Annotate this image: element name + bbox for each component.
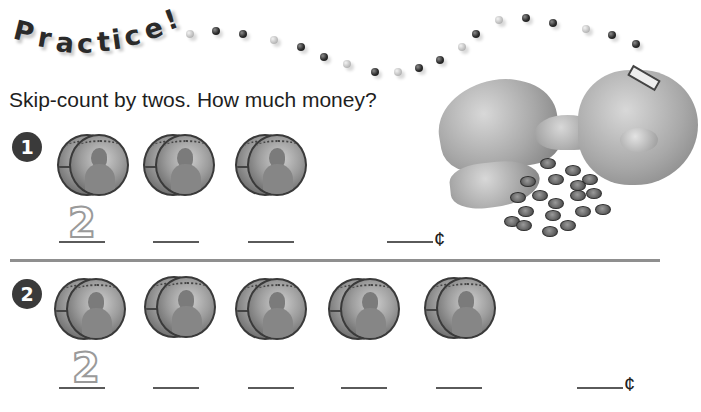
penny-icon <box>510 192 526 203</box>
penny-icon <box>575 206 591 217</box>
instruction-text: Skip-count by twos. How much money? <box>9 88 377 112</box>
bead-icon <box>549 19 557 27</box>
penny-icon <box>560 220 576 231</box>
penny-icon <box>586 188 602 199</box>
penny-icon <box>516 220 532 231</box>
bead-icon <box>436 56 444 64</box>
answer-blank[interactable] <box>59 387 105 389</box>
bead-icon <box>632 40 640 48</box>
penny-icon <box>518 206 534 217</box>
penny-pair <box>57 134 131 198</box>
piggy-snout <box>620 128 658 152</box>
title-letter: c <box>77 28 93 59</box>
penny-icon <box>540 158 556 169</box>
penny-icon <box>436 277 496 339</box>
penny-icon <box>247 278 307 340</box>
bead-icon <box>495 16 503 24</box>
title-letter: t <box>96 26 111 58</box>
penny-icon <box>570 190 586 201</box>
total-answer-blank[interactable] <box>387 241 433 243</box>
penny-icon <box>155 134 215 196</box>
penny-pair <box>54 278 128 342</box>
penny-pair <box>328 278 402 342</box>
cent-sign: ¢ <box>624 373 635 396</box>
penny-icon <box>247 134 307 196</box>
bead-icon <box>522 14 530 22</box>
answer-blank[interactable] <box>248 387 294 389</box>
title-letter: r <box>35 21 54 54</box>
penny-pair <box>424 277 498 341</box>
answer-blank[interactable] <box>59 241 105 243</box>
answer-blank[interactable] <box>153 241 199 243</box>
total-answer-blank[interactable] <box>577 387 623 389</box>
bead-icon <box>394 68 402 76</box>
title-letter: a <box>54 26 75 59</box>
answer-blank[interactable] <box>248 241 294 243</box>
penny-icon <box>520 176 536 187</box>
bead-icon <box>239 30 247 38</box>
penny-pair <box>235 278 309 342</box>
bead-icon <box>212 27 220 35</box>
bead-icon <box>608 31 616 39</box>
penny-pair <box>143 134 217 198</box>
penny-icon <box>532 190 548 201</box>
penny-icon <box>548 174 564 185</box>
piggy-bank-icon <box>420 70 701 250</box>
bead-icon <box>371 68 379 76</box>
problem-number-badge: 1 <box>12 132 42 162</box>
bead-icon <box>320 53 328 61</box>
problem-number-badge: 2 <box>12 279 42 309</box>
penny-icon <box>595 204 611 215</box>
penny-icon <box>69 134 129 196</box>
section-divider <box>10 259 660 262</box>
bead-icon <box>343 60 351 68</box>
answer-blank[interactable] <box>436 387 482 389</box>
cent-sign: ¢ <box>434 228 445 251</box>
penny-icon <box>548 198 564 209</box>
penny-icon <box>542 226 558 237</box>
traced-answer: 2 <box>72 348 100 388</box>
bead-icon <box>582 25 590 33</box>
answer-blank[interactable] <box>341 387 387 389</box>
traced-answer: 2 <box>68 203 96 243</box>
penny-pair <box>144 276 218 340</box>
answer-blank[interactable] <box>153 387 199 389</box>
bead-icon <box>472 30 480 38</box>
penny-pair <box>235 134 309 198</box>
penny-icon <box>565 165 581 176</box>
penny-icon <box>156 276 216 338</box>
bead-icon <box>458 43 466 51</box>
penny-icon <box>66 278 126 340</box>
title-letter: c <box>121 19 143 53</box>
penny-icon <box>545 210 561 221</box>
title-letter: P <box>11 14 38 49</box>
penny-icon <box>340 278 400 340</box>
bead-icon <box>186 30 194 38</box>
bead-icon <box>297 43 305 51</box>
penny-icon <box>582 174 598 185</box>
bead-icon <box>270 36 278 44</box>
